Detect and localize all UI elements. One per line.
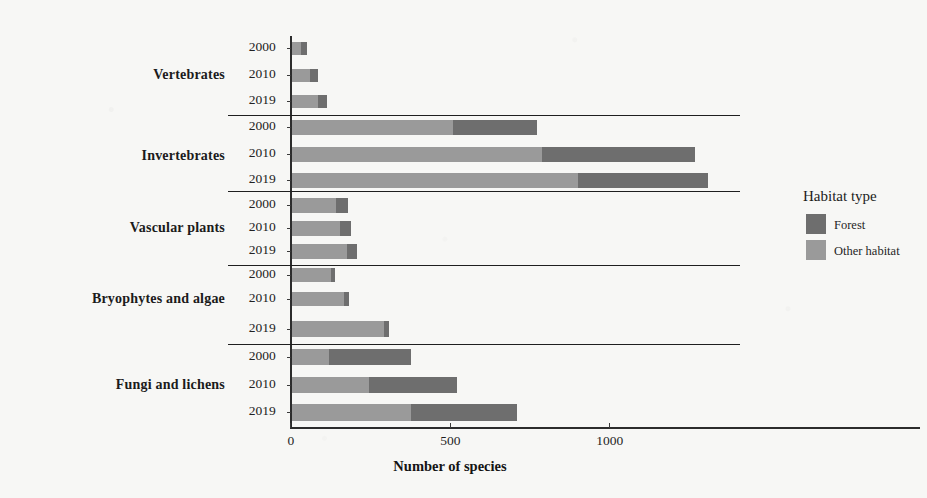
bar-segment-forest bbox=[336, 198, 347, 213]
panel-separator bbox=[228, 344, 740, 346]
y-axis-tick bbox=[287, 180, 291, 181]
panel-separator bbox=[228, 191, 740, 193]
x-axis-tick bbox=[609, 423, 610, 428]
year-tick-label: 2010 bbox=[232, 376, 276, 392]
bar-segment-other-habitat bbox=[292, 69, 310, 82]
year-tick-label: 2000 bbox=[232, 196, 276, 212]
bar-segment-other-habitat bbox=[292, 147, 542, 162]
category-label: Bryophytes and algae bbox=[15, 291, 225, 307]
bar-segment-forest bbox=[310, 69, 318, 82]
year-tick-label: 2010 bbox=[232, 66, 276, 82]
year-tick-label: 2019 bbox=[232, 320, 276, 336]
x-tick-label: 1000 bbox=[580, 433, 640, 449]
year-tick-label: 2019 bbox=[232, 92, 276, 108]
bar-segment-other-habitat bbox=[292, 268, 331, 282]
y-axis-tick bbox=[287, 275, 291, 276]
y-axis-tick bbox=[287, 48, 291, 49]
panel-separator bbox=[228, 115, 740, 117]
bar-segment-forest bbox=[301, 42, 307, 55]
y-axis-tick bbox=[287, 299, 291, 300]
bar-segment-other-habitat bbox=[292, 292, 344, 306]
bar-segment-other-habitat bbox=[292, 321, 384, 337]
y-axis-tick bbox=[287, 228, 291, 229]
bar-segment-forest bbox=[344, 292, 349, 306]
year-tick-label: 2000 bbox=[232, 348, 276, 364]
legend-label-other-habitat: Other habitat bbox=[834, 244, 900, 259]
y-axis-tick bbox=[287, 251, 291, 252]
bar-segment-forest bbox=[347, 244, 357, 259]
y-axis-tick bbox=[287, 154, 291, 155]
bar-segment-other-habitat bbox=[292, 377, 369, 393]
year-tick-label: 2000 bbox=[232, 118, 276, 134]
category-label: Fungi and lichens bbox=[15, 377, 225, 393]
y-axis-tick bbox=[287, 75, 291, 76]
year-tick-label: 2019 bbox=[232, 171, 276, 187]
year-tick-label: 2010 bbox=[232, 290, 276, 306]
bar-segment-forest bbox=[453, 120, 537, 135]
bar-segment-other-habitat bbox=[292, 404, 411, 421]
x-tick-label: 0 bbox=[261, 433, 321, 449]
year-tick-label: 2010 bbox=[232, 145, 276, 161]
year-tick-label: 2000 bbox=[232, 39, 276, 55]
y-axis-tick bbox=[287, 101, 291, 102]
year-tick-label: 2000 bbox=[232, 266, 276, 282]
legend-title: Habitat type bbox=[803, 188, 877, 205]
bar-segment-forest bbox=[384, 321, 389, 337]
y-axis-tick bbox=[287, 329, 291, 330]
x-axis-tick bbox=[450, 423, 451, 428]
category-label: Invertebrates bbox=[15, 148, 225, 164]
bar-segment-forest bbox=[542, 147, 695, 162]
year-tick-label: 2019 bbox=[232, 403, 276, 419]
bar-segment-other-habitat bbox=[292, 95, 318, 108]
y-axis-tick bbox=[287, 385, 291, 386]
chart-page: Vertebrates200020102019Invertebrates2000… bbox=[0, 0, 927, 498]
bar-segment-other-habitat bbox=[292, 198, 337, 213]
bar-segment-forest bbox=[340, 221, 351, 236]
legend-swatch-other-habitat bbox=[806, 240, 826, 260]
x-axis-title: Number of species bbox=[330, 458, 570, 475]
y-axis-tick bbox=[287, 412, 291, 413]
bar-segment-forest bbox=[331, 268, 335, 282]
bar-segment-other-habitat bbox=[292, 221, 340, 236]
year-tick-label: 2019 bbox=[232, 242, 276, 258]
bar-segment-other-habitat bbox=[292, 173, 578, 188]
bar-segment-other-habitat bbox=[292, 120, 453, 135]
y-axis-tick bbox=[287, 205, 291, 206]
category-label: Vascular plants bbox=[15, 220, 225, 236]
bar-segment-other-habitat bbox=[292, 349, 329, 365]
bar-segment-forest bbox=[369, 377, 457, 393]
bar-segment-other-habitat bbox=[292, 42, 301, 55]
bar-segment-forest bbox=[318, 95, 327, 108]
bar-segment-other-habitat bbox=[292, 244, 347, 259]
x-axis-line bbox=[290, 427, 920, 429]
year-tick-label: 2010 bbox=[232, 219, 276, 235]
bar-segment-forest bbox=[411, 404, 517, 421]
bar-segment-forest bbox=[578, 173, 708, 188]
legend-swatch-forest bbox=[806, 214, 826, 234]
y-axis-tick bbox=[287, 127, 291, 128]
panel-separator bbox=[228, 265, 740, 267]
x-axis-tick bbox=[290, 423, 291, 428]
x-tick-label: 500 bbox=[420, 433, 480, 449]
bar-segment-forest bbox=[329, 349, 411, 365]
y-axis-tick bbox=[287, 357, 291, 358]
category-label: Vertebrates bbox=[15, 67, 225, 83]
legend-label-forest: Forest bbox=[834, 218, 865, 233]
